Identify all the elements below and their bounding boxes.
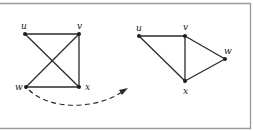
left-graph-k4-crossing: uvwx [15,21,90,92]
vertex-label-x: x [85,82,90,92]
vertex-w [223,57,227,61]
right-graph-planar: uvwx [136,22,232,96]
vertex-label-x: x [183,86,188,96]
vertex-x [77,85,81,89]
vertex-label-u: u [21,21,27,31]
transition-arrow [29,88,128,105]
k4-transformation-diagram: uvwx uvwx [0,0,253,131]
vertex-u [23,32,27,36]
vertex-label-v: v [77,21,82,31]
vertex-x [183,79,187,83]
edge-u-x [139,36,185,81]
vertex-u [137,34,141,38]
vertex-v [183,34,187,38]
edge-v-w [185,36,225,59]
vertex-label-v: v [183,22,188,32]
vertex-w [24,85,28,89]
vertex-label-w: w [15,82,23,92]
vertex-label-u: u [136,23,142,33]
dashed-curve-arrow [29,90,122,105]
vertex-label-w: w [224,46,232,56]
vertex-v [77,32,81,36]
arrowhead-icon [119,88,128,95]
edge-w-x [185,59,225,81]
